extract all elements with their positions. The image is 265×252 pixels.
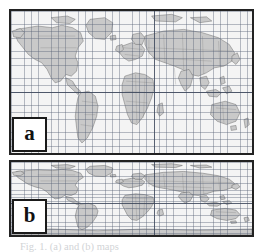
world-map-svg-b	[11, 162, 252, 235]
world-map-a	[11, 11, 252, 153]
panel-label-a-text: a	[24, 123, 35, 144]
panel-label-b-text: b	[24, 205, 36, 226]
map-panel-a[interactable]: a	[9, 9, 254, 155]
panel-label-a: a	[12, 117, 47, 152]
panel-label-b: b	[12, 199, 47, 234]
world-map-svg-a	[11, 11, 252, 153]
figure-caption: Fig. 1. (a) and (b) maps	[20, 241, 245, 252]
map-panel-b[interactable]: b	[9, 160, 254, 237]
world-map-b	[11, 162, 252, 235]
